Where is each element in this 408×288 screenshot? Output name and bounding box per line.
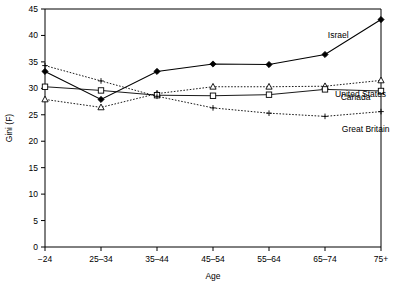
y-axis-ticks: 051015202530354045	[29, 4, 45, 252]
series-label-israel: Israel	[328, 30, 349, 40]
data-point-marker	[378, 16, 384, 22]
x-tick-label: 75+	[374, 254, 388, 264]
y-tick-label: 5	[33, 216, 38, 226]
data-point-marker	[98, 96, 104, 102]
y-tick-label: 20	[29, 136, 39, 146]
data-point-marker	[322, 114, 328, 120]
data-point-marker	[210, 83, 216, 89]
y-tick-label: 30	[29, 83, 39, 93]
data-point-marker	[378, 77, 384, 83]
x-tick-label: −24	[38, 254, 53, 264]
series-great-britain	[42, 63, 384, 119]
series-label-great-britain: Great Britain	[342, 124, 390, 134]
x-axis-title: Age	[205, 271, 220, 281]
data-point-marker	[210, 93, 215, 98]
data-point-marker	[210, 61, 216, 67]
data-point-marker	[266, 92, 271, 97]
series-label-canada: Canada	[341, 92, 371, 102]
y-tick-label: 15	[29, 163, 39, 173]
y-tick-label: 25	[29, 110, 39, 120]
y-tick-label: 0	[33, 242, 38, 252]
gini-by-age-line-chart: 051015202530354045 −2425–3435–4445–5455–…	[0, 0, 408, 288]
x-tick-label: 65–74	[313, 254, 337, 264]
data-point-marker	[266, 61, 272, 67]
data-point-marker	[266, 110, 272, 116]
y-tick-label: 10	[29, 189, 39, 199]
data-point-marker	[98, 88, 103, 93]
y-tick-label: 35	[29, 57, 39, 67]
x-axis-ticks: −2425–3435–4445–5455–6465–7475+	[38, 247, 388, 264]
data-point-marker	[378, 109, 384, 115]
data-point-marker	[266, 83, 272, 89]
data-point-marker	[322, 51, 328, 57]
data-point-marker	[42, 84, 47, 89]
x-tick-label: 45–54	[201, 254, 225, 264]
axes	[45, 9, 381, 247]
x-tick-label: 35–44	[145, 254, 169, 264]
data-point-marker	[154, 68, 160, 74]
data-point-marker	[42, 63, 48, 69]
data-point-marker	[42, 68, 48, 74]
x-tick-label: 55–64	[257, 254, 281, 264]
data-point-marker	[322, 87, 327, 92]
data-point-marker	[210, 105, 216, 111]
y-axis-title: Gini (F)	[4, 114, 14, 143]
data-point-marker	[42, 96, 48, 102]
chart-canvas: 051015202530354045 −2425–3435–4445–5455–…	[0, 0, 408, 288]
y-tick-label: 40	[29, 30, 39, 40]
data-point-marker	[98, 78, 104, 84]
x-tick-label: 25–34	[89, 254, 113, 264]
y-tick-label: 45	[29, 4, 39, 14]
